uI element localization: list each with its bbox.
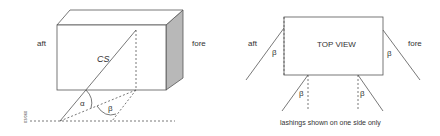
- label-fore-right: fore: [408, 39, 422, 48]
- label-cs: CS: [97, 54, 110, 64]
- top-view-title: TOP VIEW: [317, 40, 356, 49]
- lashing-diagram: aft fore CS α β 03/060 aft fore TOP VIEW…: [0, 0, 440, 136]
- side-code: 03/060: [23, 110, 28, 123]
- label-aft-right: aft: [248, 39, 258, 48]
- box-front-face: [57, 25, 166, 90]
- label-beta-left: β: [108, 104, 113, 113]
- beta-label-side-1: β: [299, 89, 304, 98]
- beta-label-fore: β: [387, 49, 392, 58]
- label-alpha: α: [80, 99, 85, 108]
- isometric-view: [30, 10, 183, 121]
- lashing-aft: [246, 28, 284, 80]
- label-aft-left: aft: [37, 39, 47, 48]
- beta-arc: [97, 106, 116, 115]
- beta-label-side-2: β: [360, 89, 365, 98]
- box-top-face: [57, 10, 183, 25]
- lashing-side-1: [282, 75, 308, 111]
- label-fore-left: fore: [192, 39, 206, 48]
- projection-line-1: [60, 90, 136, 121]
- caption: lashings shown on one side only: [280, 119, 381, 127]
- top-view: [246, 17, 420, 111]
- alpha-arc: [86, 90, 92, 108]
- beta-label-aft: β: [272, 48, 277, 57]
